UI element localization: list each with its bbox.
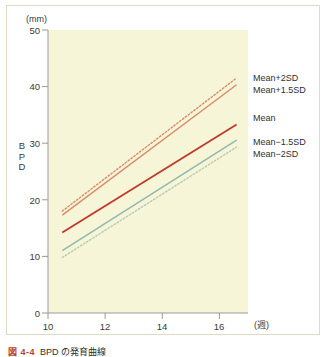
series-mean-minus-2sd xyxy=(62,147,236,258)
y-tick-label-50: 50 xyxy=(20,25,40,36)
y-tick-label-40: 40 xyxy=(20,81,40,92)
y-tick-label-30: 30 xyxy=(20,138,40,149)
x-tick-label-14: 14 xyxy=(150,321,174,332)
series-mean xyxy=(62,124,236,232)
x-tick-label-16: 16 xyxy=(207,321,231,332)
x-tick-label-10: 10 xyxy=(36,321,60,332)
legend-label-mean: Mean xyxy=(253,113,276,123)
y-tick-label-0: 0 xyxy=(20,308,40,319)
y-tick-label-20: 20 xyxy=(20,195,40,206)
figure-caption-marker: 図 4-4 xyxy=(8,345,35,357)
figure-caption: 図 4-4BPD の発育曲線 xyxy=(8,345,308,357)
x-axis-ticks xyxy=(48,313,219,319)
legend-label-mean-plus-2sd: Mean+2SD xyxy=(253,73,298,83)
chart-canvas xyxy=(0,0,328,357)
y-axis-unit-label: (mm) xyxy=(26,14,47,24)
y-tick-label-10: 10 xyxy=(20,251,40,262)
legend-label-mean-minus-1p5sd: Mean−1.5SD xyxy=(253,137,306,147)
legend-label-mean-minus-2sd: Mean−2SD xyxy=(253,149,298,159)
x-tick-label-12: 12 xyxy=(93,321,117,332)
x-axis-unit-label: (週) xyxy=(254,318,269,331)
figure-caption-text: BPD の発育曲線 xyxy=(40,345,106,357)
figure-container: (mm) BPD 50 40 30 20 10 0 10 12 14 16 (週… xyxy=(0,0,328,357)
legend-label-mean-plus-1p5sd: Mean+1.5SD xyxy=(253,85,306,95)
series-mean-plus-2sd xyxy=(62,78,236,211)
y-axis-ticks xyxy=(42,30,48,313)
